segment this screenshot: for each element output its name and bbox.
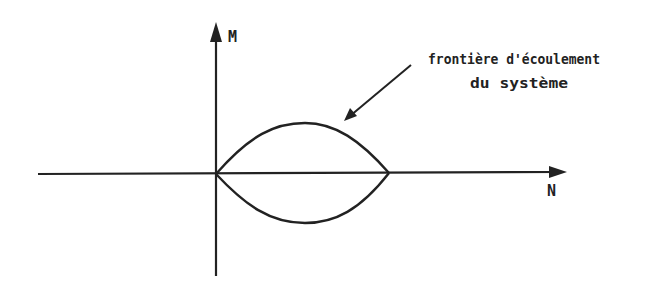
- n-axis: [38, 172, 560, 174]
- flow-boundary-upper: [216, 123, 389, 174]
- annotation-line-1: frontière d'écoulement: [428, 51, 600, 67]
- annotation-pointer: [350, 65, 411, 116]
- annotation-arrowhead-icon: [344, 108, 357, 121]
- flow-boundary-lower: [216, 173, 389, 223]
- m-axis-arrowhead-icon: [210, 22, 222, 42]
- annotation-line-2: du système: [470, 75, 568, 91]
- interaction-diagram: M N frontière d'écoulement du système: [0, 0, 645, 295]
- n-axis-label: N: [547, 182, 556, 200]
- n-axis-arrowhead-icon: [549, 166, 567, 178]
- m-axis-label: M: [228, 28, 237, 46]
